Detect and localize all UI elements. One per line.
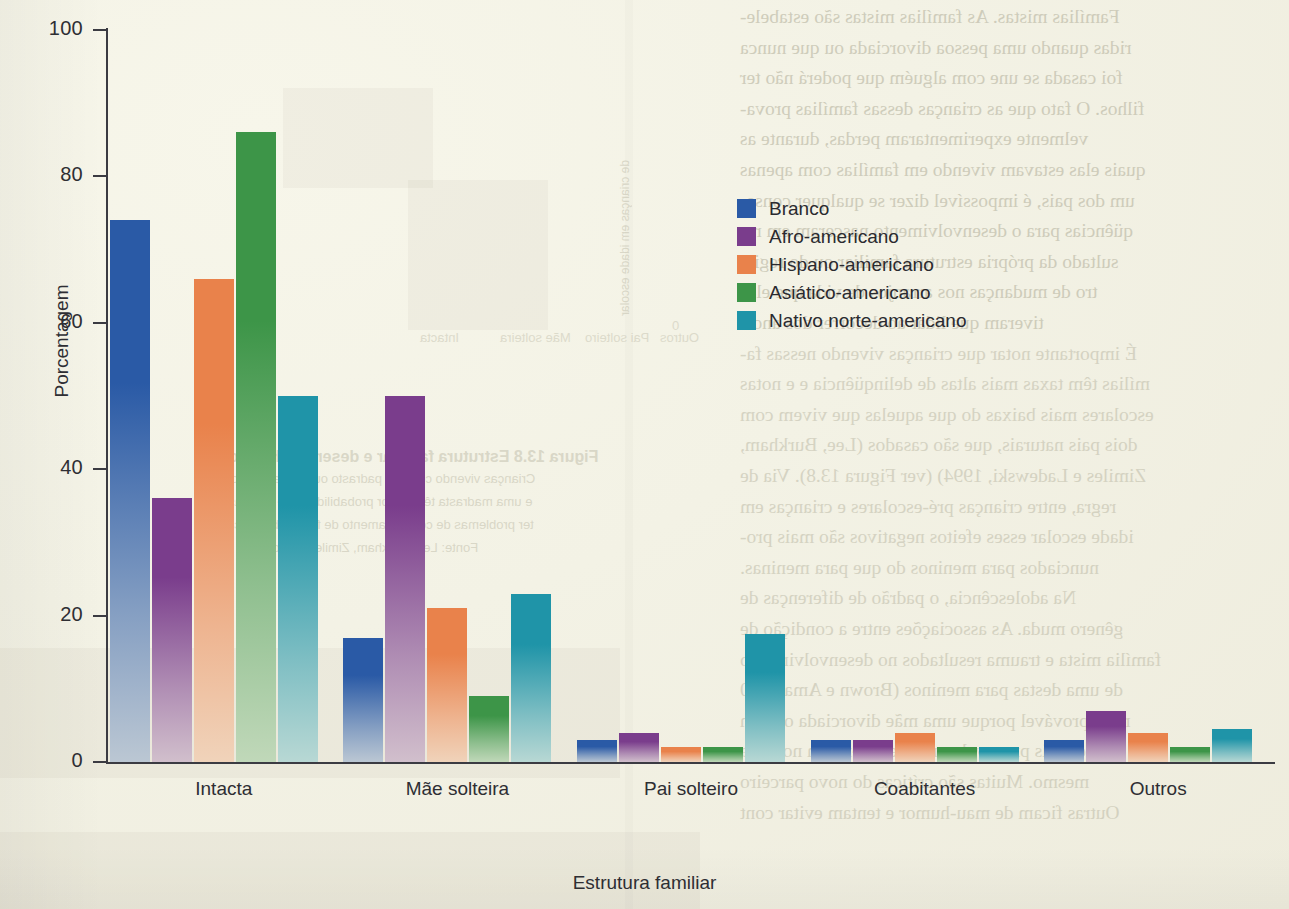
y-axis-tick-label: 20 (60, 604, 83, 624)
y-axis-tick-label: 0 (72, 750, 83, 770)
bar[interactable] (1086, 711, 1126, 762)
legend-color-swatch (737, 311, 756, 330)
legend: BrancoAfro-americanoHispano-americanoAsi… (737, 199, 966, 330)
bar[interactable] (278, 396, 318, 762)
bar[interactable] (811, 740, 851, 762)
x-axis-title: Estrutura familiar (0, 872, 1289, 894)
bar[interactable] (511, 594, 551, 762)
bar-fill (427, 608, 467, 762)
legend-item[interactable]: Hispano-americano (737, 255, 966, 274)
bar-fill (152, 498, 192, 762)
bar-group (574, 30, 808, 762)
bar[interactable] (343, 638, 383, 762)
bar[interactable] (1044, 740, 1084, 762)
bar-fill (194, 279, 234, 762)
bar[interactable] (236, 132, 276, 762)
bar-group (808, 30, 1042, 762)
legend-color-swatch (737, 283, 756, 302)
bar-fill (895, 733, 935, 762)
bar[interactable] (1170, 747, 1210, 762)
x-axis-category-label: Pai solteiro (574, 778, 808, 800)
legend-item[interactable]: Branco (737, 199, 966, 218)
y-axis-tick-label: 80 (60, 164, 83, 184)
bar-fill (469, 696, 509, 762)
y-axis-tick (93, 615, 106, 617)
bar-fill (577, 740, 617, 762)
legend-item-label: Afro-americano (769, 227, 899, 246)
bar-fill (110, 220, 150, 762)
y-axis-tick-label: 100 (49, 18, 83, 38)
bar-fill (1128, 733, 1168, 762)
bar[interactable] (979, 747, 1019, 762)
bar-fill (937, 747, 977, 762)
bar-fill (703, 747, 743, 762)
plot-area (107, 30, 1275, 762)
legend-color-swatch (737, 255, 756, 274)
bar-fill (343, 638, 383, 762)
bar-fill (1212, 729, 1252, 762)
bar-fill (1170, 747, 1210, 762)
y-axis-tick (93, 175, 106, 177)
y-axis-tick (93, 322, 106, 324)
bar[interactable] (427, 608, 467, 762)
bar[interactable] (853, 740, 893, 762)
bar-fill (745, 634, 785, 762)
bar-fill (1044, 740, 1084, 762)
bar-fill (278, 396, 318, 762)
bar-fill (1086, 711, 1126, 762)
bar[interactable] (469, 696, 509, 762)
bar-fill (661, 747, 701, 762)
bar[interactable] (152, 498, 192, 762)
bar-fill (979, 747, 1019, 762)
bar-fill (853, 740, 893, 762)
x-axis-category-label: Intacta (107, 778, 341, 800)
bar-fill (811, 740, 851, 762)
legend-item-label: Hispano-americano (769, 255, 934, 274)
legend-item-label: Nativo norte-americano (769, 311, 966, 330)
legend-item-label: Asiático-americano (769, 283, 931, 302)
bar-fill (619, 733, 659, 762)
bar[interactable] (895, 733, 935, 762)
bar-fill (385, 396, 425, 762)
legend-color-swatch (737, 227, 756, 246)
y-axis-tick (93, 761, 106, 763)
bar[interactable] (703, 747, 743, 762)
bar[interactable] (1128, 733, 1168, 762)
y-axis-tick (93, 29, 106, 31)
x-axis-line (106, 762, 1275, 764)
bar[interactable] (194, 279, 234, 762)
legend-item[interactable]: Afro-americano (737, 227, 966, 246)
y-axis-tick-label: 40 (60, 457, 83, 477)
bar-group (341, 30, 575, 762)
bar-fill (511, 594, 551, 762)
bar-group (107, 30, 341, 762)
bar[interactable] (385, 396, 425, 762)
bar[interactable] (619, 733, 659, 762)
y-axis-tick (93, 468, 106, 470)
bar-fill (236, 132, 276, 762)
bar[interactable] (661, 747, 701, 762)
bar[interactable] (745, 634, 785, 762)
x-axis-category-label: Outros (1041, 778, 1275, 800)
legend-color-swatch (737, 199, 756, 218)
x-axis-category-label: Mãe solteira (341, 778, 575, 800)
bar[interactable] (110, 220, 150, 762)
legend-item[interactable]: Asiático-americano (737, 283, 966, 302)
bar[interactable] (577, 740, 617, 762)
legend-item[interactable]: Nativo norte-americano (737, 311, 966, 330)
legend-item-label: Branco (769, 199, 829, 218)
bar[interactable] (937, 747, 977, 762)
bar[interactable] (1212, 729, 1252, 762)
bar-group (1041, 30, 1275, 762)
y-axis-title: Porcentagem (51, 241, 73, 441)
bar-chart: 020406080100 Porcentagem Estrutura famil… (0, 0, 1289, 909)
x-axis-category-label: Coabitantes (808, 778, 1042, 800)
